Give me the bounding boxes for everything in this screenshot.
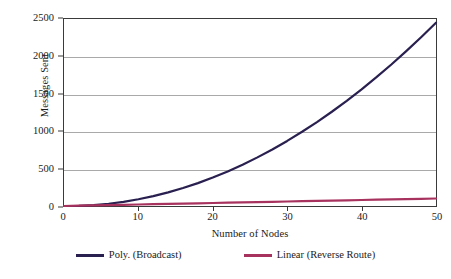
legend-item[interactable]: Linear (Reverse Route) [244,250,376,261]
chart-legend: Poly. (Broadcast)Linear (Reverse Route) [0,250,451,261]
x-axis-tick-label: 50 [432,212,443,223]
x-axis-title: Number of Nodes [63,228,437,239]
x-axis-tick-mark [287,207,288,211]
legend-item[interactable]: Poly. (Broadcast) [76,250,182,261]
x-axis-tick-mark [138,207,139,211]
legend-line-swatch [76,254,104,257]
legend-line-swatch [244,254,272,257]
legend-label: Poly. (Broadcast) [109,250,182,261]
x-axis-tick-label: 0 [60,212,65,223]
x-axis-tick-label: 30 [282,212,293,223]
x-axis-tick-label: 40 [357,212,368,223]
x-axis-tick-mark [213,207,214,211]
x-axis-tick-label: 20 [207,212,218,223]
x-axis-tick-mark [362,207,363,211]
legend-label: Linear (Reverse Route) [277,250,376,261]
chart-container: Messages Sent 05001000150020002500 01020… [0,0,451,279]
x-axis-tick-label: 10 [133,212,144,223]
